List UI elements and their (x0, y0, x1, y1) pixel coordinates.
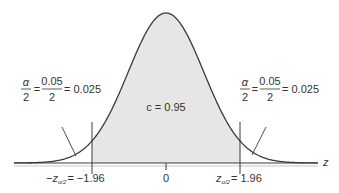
shaded-central-region (92, 13, 240, 163)
right-critical-label: zα/2= 1.96 (215, 172, 262, 185)
left-tail-label: α 2 = 0.05 2 = 0.025 (21, 75, 101, 103)
denominator: 2 (49, 91, 55, 103)
zero-label: 0 (163, 172, 169, 184)
right-tail-label: α 2 = 0.05 2 = 0.025 (240, 75, 319, 103)
result: = 0.025 (64, 83, 101, 95)
equals: = (34, 83, 40, 95)
result: = 0.025 (282, 83, 319, 95)
numerator: 0.05 (259, 75, 280, 87)
denominator: 2 (267, 91, 273, 103)
numerator: 0.05 (41, 75, 62, 87)
left-tail-leader (62, 127, 76, 156)
alpha-symbol: α (242, 76, 249, 88)
alpha-symbol: α (23, 76, 30, 88)
equals: = (252, 83, 258, 95)
denominator: 2 (242, 91, 248, 103)
left-critical-label: −zα/2= −1.96 (46, 172, 105, 185)
normal-distribution-diagram: α 2 = 0.05 2 = 0.025 α 2 = 0.05 2 = 0.02… (0, 0, 339, 193)
center-area-label: c = 0.95 (146, 101, 185, 113)
denominator: 2 (23, 91, 29, 103)
right-tail-leader (252, 127, 266, 155)
axis-variable-label: z (322, 156, 329, 168)
